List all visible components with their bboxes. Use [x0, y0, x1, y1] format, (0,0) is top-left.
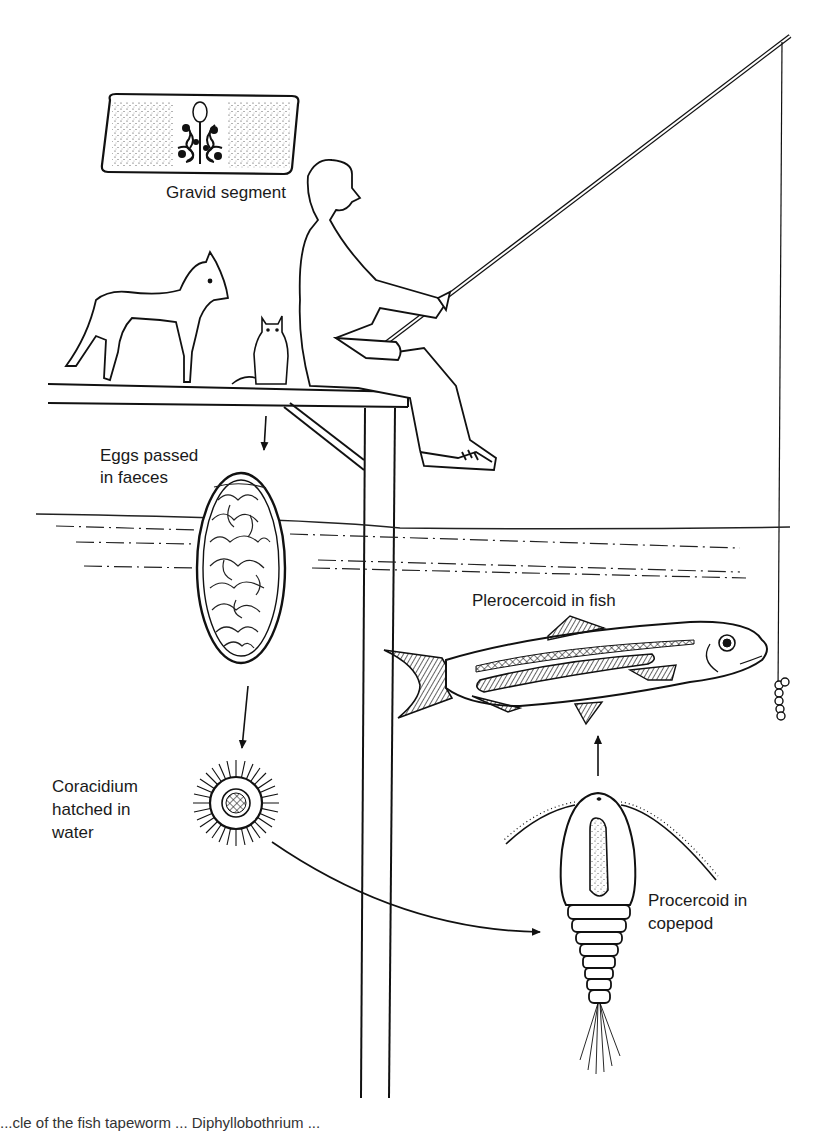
bait-worm [775, 678, 789, 720]
label-eggs-line-2: in faeces [100, 468, 168, 488]
arrow-to-eggs [264, 416, 266, 450]
label-eggs-line-1: Eggs passed [100, 446, 198, 466]
angler-illustration [300, 160, 496, 470]
label-procercoid-line-2: copepod [648, 914, 713, 934]
label-coracidium-line-1: Coracidium [52, 777, 138, 797]
label-gravid-segment: Gravid segment [166, 183, 286, 203]
label-coracidium-line-3: water [52, 823, 94, 843]
cat-illustration [232, 316, 288, 384]
gravid-segment-illustration [102, 94, 299, 174]
dog-illustration [66, 252, 228, 382]
egg-illustration [197, 473, 285, 663]
arrow-to-copepod [272, 842, 540, 932]
coracidium-illustration [193, 760, 279, 846]
label-plerocercoid: Plerocercoid in fish [472, 591, 616, 611]
water-surface [36, 514, 790, 578]
label-coracidium-line-2: hatched in [52, 800, 130, 820]
figure-caption-cropped: ...cle of the fish tapeworm ... Diphyllo… [0, 1114, 320, 1131]
fish-illustration [384, 616, 767, 724]
arrow-to-coracidium [242, 686, 248, 748]
label-procercoid-line-1: Procercoid in [648, 891, 747, 911]
